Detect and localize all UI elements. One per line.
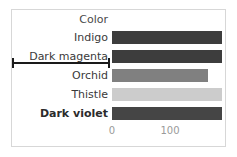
row-label-orchid: Orchid: [0, 66, 108, 85]
x-axis: 0 100: [0, 124, 237, 140]
bar-indigo: [112, 31, 222, 44]
bar-orchid: [112, 69, 208, 82]
bar-dark-violet: [112, 107, 222, 120]
table-row: Thistle: [0, 85, 237, 104]
row-label-dark-violet: Dark violet: [0, 104, 108, 123]
range-bracket-cap-right: [108, 58, 110, 68]
table-row: Indigo: [0, 28, 237, 47]
table-row: Dark violet: [0, 104, 237, 123]
x-tick-label-100: 100: [150, 124, 190, 138]
x-tick-label-0: 0: [92, 124, 132, 138]
table-row: Orchid: [0, 66, 237, 85]
bar-thistle: [112, 88, 222, 101]
row-label-indigo: Indigo: [0, 28, 108, 47]
row-label-thistle: Thistle: [0, 85, 108, 104]
range-bracket-cap-left: [12, 58, 14, 68]
column-header-color: Color: [0, 13, 108, 27]
bar-chart-figure: Color Indigo Dark magenta Orchid Thistle…: [0, 0, 237, 157]
range-bracket-line: [12, 62, 110, 64]
bar-dark-magenta: [112, 50, 222, 63]
